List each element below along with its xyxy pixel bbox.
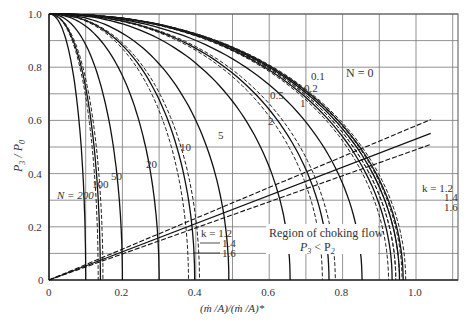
- x-tick-label: 0.8: [335, 286, 349, 298]
- x-tick-label: 0.2: [114, 286, 128, 298]
- label-n5: 5: [218, 129, 224, 141]
- y-tick-label: 1.0: [28, 8, 42, 20]
- label-n100: 100: [92, 178, 109, 190]
- choking-line-k1.6: [49, 144, 431, 280]
- x-tick-label: 0.4: [188, 286, 202, 298]
- chart-svg: 00.20.40.60.81.000.20.40.60.81.0 N = 0 0…: [0, 0, 469, 324]
- label-n50: 50: [111, 170, 123, 182]
- choking-line-k1.4: [49, 133, 431, 280]
- x-tick-label: 0: [46, 286, 52, 298]
- label-n0: N = 0: [346, 66, 373, 80]
- y-tick-label: 0.8: [28, 61, 42, 73]
- y-tick-label: 0.4: [28, 168, 42, 180]
- label-n05: 0.5: [270, 89, 284, 101]
- y-tick-label: 0.2: [28, 221, 42, 233]
- label-n1: 1: [300, 97, 306, 109]
- x-tick-label: 1.0: [408, 286, 422, 298]
- choking-line-k1.2: [49, 120, 431, 280]
- label-n10: 10: [180, 141, 192, 153]
- choking-lines: [49, 120, 431, 280]
- region-label: Region of choking flow: [269, 226, 384, 240]
- label-n01: 0.1: [311, 70, 325, 82]
- x-axis-label: (ṁ /A)/(ṁ /A)*: [200, 302, 265, 315]
- label-k16-mid: 1.6: [222, 247, 236, 259]
- label-n200: N = 200: [56, 189, 94, 201]
- y-axis-label: P3 / P0: [11, 140, 27, 173]
- label-n20: 20: [146, 158, 158, 170]
- fanno-flow-chart: 00.20.40.60.81.000.20.40.60.81.0 N = 0 0…: [0, 0, 469, 324]
- y-tick-label: 0.6: [28, 114, 42, 126]
- y-tick-label: 0: [38, 274, 44, 286]
- region-inequality: P3 < P2: [299, 240, 335, 256]
- x-tick-label: 0.6: [261, 286, 275, 298]
- label-n2: 2: [268, 115, 274, 127]
- label-k16-right: 1.6: [444, 201, 458, 213]
- label-n02: 0.2: [304, 82, 318, 94]
